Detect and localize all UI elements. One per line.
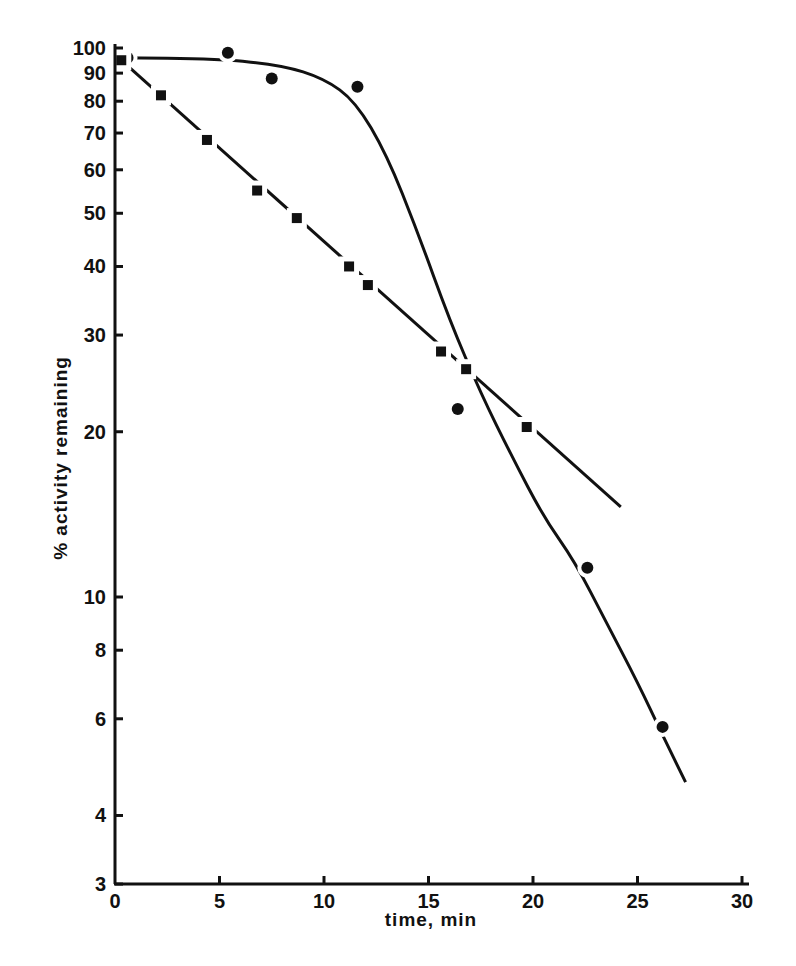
square-marker (436, 347, 446, 357)
y-tick-label: 20 (84, 421, 106, 443)
fit-lines (115, 58, 686, 782)
y-tick-label: 100 (73, 37, 106, 59)
x-tick-label: 20 (522, 890, 544, 912)
square-marker (522, 422, 532, 432)
chart-canvas: 3468102030405060708090100 051015202530 t… (0, 0, 796, 966)
y-tick-label: 90 (84, 62, 106, 84)
square-marker (461, 364, 471, 374)
square-marker (202, 135, 212, 145)
y-tick-label: 80 (84, 90, 106, 112)
square-marker (363, 280, 373, 290)
square-marker (344, 261, 354, 271)
y-tick-label: 8 (95, 639, 106, 661)
y-tick-label: 60 (84, 159, 106, 181)
x-axis-title: time, min (385, 909, 477, 930)
circle-marker (266, 72, 278, 84)
circle-marker (351, 81, 363, 93)
y-tick-label: 10 (84, 586, 106, 608)
y-tick-label: 70 (84, 122, 106, 144)
data-markers (111, 43, 672, 737)
x-tick-label: 25 (626, 890, 648, 912)
circle-marker (581, 562, 593, 574)
axes (114, 44, 749, 884)
y-tick-label: 6 (95, 708, 106, 730)
x-tick-label: 10 (313, 890, 335, 912)
square-marker (292, 213, 302, 223)
y-tick-label: 4 (95, 804, 107, 826)
square-marker (252, 186, 262, 196)
x-tick-label: 30 (731, 890, 753, 912)
circle-marker (222, 47, 234, 59)
y-tick-label: 40 (84, 255, 106, 277)
y-tick-label: 50 (84, 202, 106, 224)
y-axis-title: % activity remaining (50, 356, 71, 560)
square-marker (116, 55, 126, 65)
square-marker (156, 90, 166, 100)
circle-series-fit-curve (115, 58, 686, 782)
y-tick-label: 3 (95, 873, 106, 895)
circle-marker (452, 403, 464, 415)
circle-marker (657, 721, 669, 733)
x-ticks: 051015202530 (109, 876, 753, 912)
x-tick-label: 0 (109, 890, 120, 912)
x-tick-label: 5 (214, 890, 225, 912)
y-tick-label: 30 (84, 324, 106, 346)
